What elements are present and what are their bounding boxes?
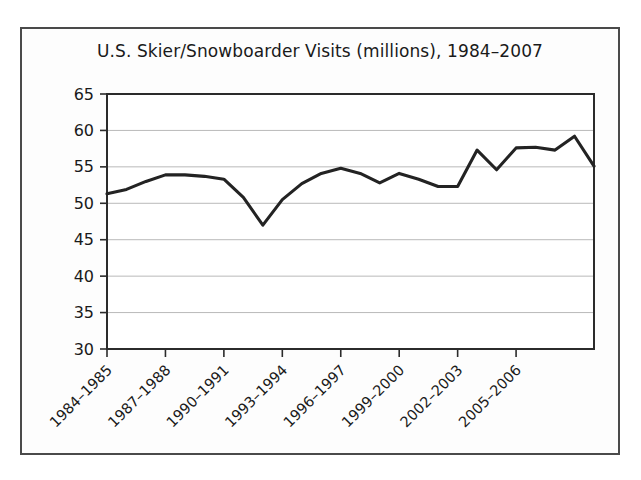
y-axis-tick-label: 65 [74, 85, 94, 104]
line-chart: 3035404550556065 1984–19851987–19881990–… [22, 29, 622, 457]
y-axis-tick-label: 55 [74, 157, 94, 176]
y-axis-tick-label: 60 [74, 121, 94, 140]
y-axis-tick-label: 30 [74, 340, 94, 359]
y-axis-tick-label: 35 [74, 303, 94, 322]
plot-area-container: 3035404550556065 1984–19851987–19881990–… [22, 29, 622, 457]
y-axis-tick-label: 50 [74, 194, 94, 213]
y-axis-tick-group: 3035404550556065 [74, 85, 107, 359]
y-axis-tick-label: 45 [74, 230, 94, 249]
x-axis-tick-label: 2005–2006 [456, 362, 525, 431]
x-axis-label-group: 1984–19851987–19881990–19911993–19941996… [46, 362, 524, 431]
chart-frame: U.S. Skier/Snowboarder Visits (millions)… [20, 27, 620, 455]
y-axis-tick-label: 40 [74, 267, 94, 286]
plot-background [107, 94, 594, 349]
x-axis-tick-group [107, 349, 516, 357]
